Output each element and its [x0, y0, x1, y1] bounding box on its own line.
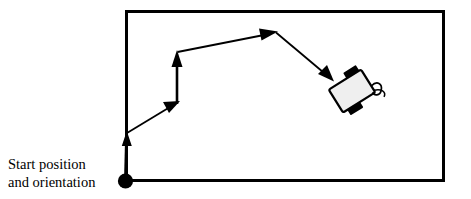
robot-path-figure: Start position and orientation — [0, 0, 471, 199]
start-position-caption: Start position and orientation — [8, 155, 126, 191]
path-segment-4 — [178, 35, 265, 52]
path-segment-2 — [127, 107, 170, 133]
arena-border-rectangle — [127, 12, 444, 181]
path-arrowhead-1 — [122, 131, 132, 146]
robot-path-group — [122, 29, 334, 182]
path-segment-5 — [276, 33, 323, 73]
caption-line-2: and orientation — [8, 173, 126, 191]
caption-line-1: Start position — [8, 155, 126, 173]
robot-body — [329, 69, 376, 112]
path-arrowhead-3 — [172, 50, 183, 67]
path-arrowhead-5 — [318, 65, 334, 82]
path-arrowhead-4 — [259, 29, 278, 41]
robot-icon — [325, 59, 387, 119]
